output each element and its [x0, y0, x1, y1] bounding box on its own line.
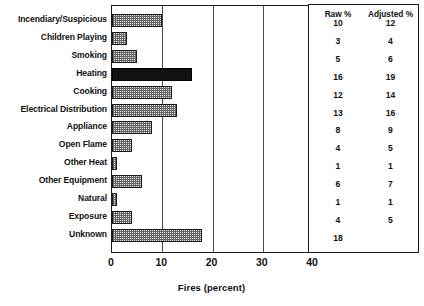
category-label: Other Equipment [0, 175, 107, 185]
bar [112, 68, 192, 81]
category-label: Natural [0, 193, 107, 203]
category-axis-labels: Incendiary/SuspiciousChildren PlayingSmo… [0, 5, 107, 253]
x-axis-title: Fires (percent) [111, 282, 312, 293]
table-cell-raw: 1 [311, 197, 365, 207]
category-label: Incendiary/Suspicious [0, 14, 107, 24]
table-cell-adjusted: 16 [363, 108, 418, 118]
table-cell-raw: 5 [311, 54, 365, 64]
table-cell-raw: 3 [311, 36, 365, 46]
table-cell-raw: 8 [311, 125, 365, 135]
table-cell-adjusted: 12 [363, 18, 418, 28]
bar [112, 229, 202, 242]
table-cell-raw: 10 [311, 18, 365, 28]
bar [112, 157, 117, 170]
table-cell-adjusted: 6 [363, 54, 418, 64]
bar [112, 139, 132, 152]
bar [112, 211, 132, 224]
category-label: Smoking [0, 50, 107, 60]
x-tick-label: 30 [247, 256, 277, 268]
category-label: Open Flame [0, 139, 107, 149]
table-cell-raw: 13 [311, 108, 365, 118]
table-cell-adjusted: 7 [363, 179, 418, 189]
fire-causes-chart-figure: Incendiary/SuspiciousChildren PlayingSmo… [0, 0, 424, 306]
bar [112, 32, 127, 45]
table-cell-raw: 16 [311, 72, 365, 82]
bar [112, 175, 142, 188]
table-cell-raw: 12 [311, 90, 365, 100]
table-cell-adjusted: 5 [363, 215, 418, 225]
table-cell-adjusted: 19 [363, 72, 418, 82]
category-label: Unknown [0, 229, 107, 239]
x-axis-tick-labels: 010203040 [111, 256, 312, 270]
table-cell-raw: 6 [311, 179, 365, 189]
bar [112, 121, 152, 134]
table-cell-adjusted: 1 [363, 197, 418, 207]
category-label: Other Heat [0, 157, 107, 167]
category-label: Appliance [0, 121, 107, 131]
bar [112, 193, 117, 206]
table-cell-raw: 4 [311, 143, 365, 153]
table-cell-raw: 4 [311, 215, 365, 225]
category-label: Children Playing [0, 32, 107, 42]
x-tick-label: 20 [197, 256, 227, 268]
x-tick-label: 10 [146, 256, 176, 268]
category-label: Cooking [0, 86, 107, 96]
table-cell-adjusted: 5 [363, 143, 418, 153]
bar [112, 86, 172, 99]
table-cell-adjusted: 4 [363, 36, 418, 46]
percent-table: Raw % Adjusted % 10123456161912141316894… [308, 4, 419, 253]
bar-series [112, 6, 311, 252]
table-cell-adjusted: 9 [363, 125, 418, 135]
table-cell-raw: 18 [311, 233, 365, 243]
plot-area [111, 5, 312, 253]
bar [112, 50, 137, 63]
x-tick-label: 0 [96, 256, 126, 268]
bar [112, 14, 162, 27]
category-label: Electrical Distribution [0, 104, 107, 114]
table-cell-adjusted: 14 [363, 90, 418, 100]
bar [112, 104, 177, 117]
table-cell-raw: 1 [311, 161, 365, 171]
category-label: Heating [0, 68, 107, 78]
category-label: Exposure [0, 211, 107, 221]
table-cell-adjusted: 1 [363, 161, 418, 171]
x-tick-label: 40 [297, 256, 327, 268]
